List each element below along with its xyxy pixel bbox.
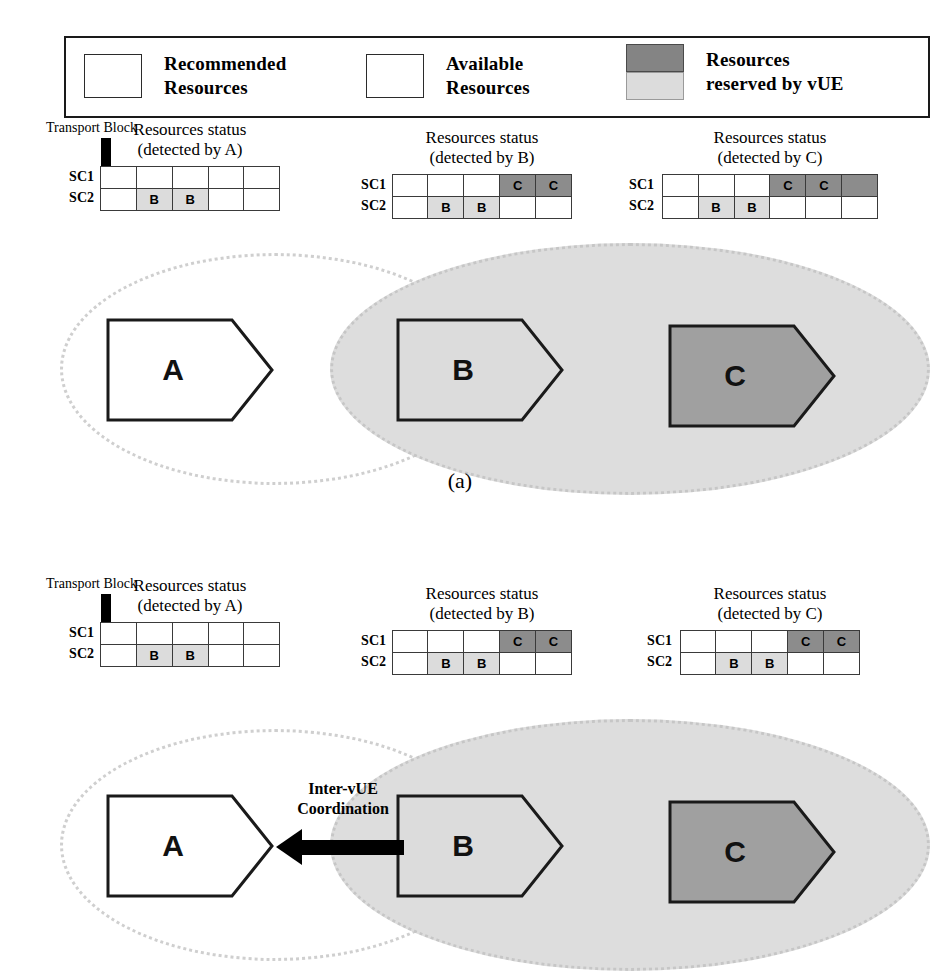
resource-cell [244, 623, 280, 645]
resource-cell: B [136, 645, 172, 667]
vehicle-a: A [106, 314, 274, 426]
resources-table-row: BB [663, 197, 878, 219]
resources-table: CCBB [662, 174, 878, 219]
resource-cell [788, 653, 824, 675]
resource-cell [698, 175, 734, 197]
legend-item-reserved-by-vue: Resources reserved by vUE [626, 44, 844, 100]
resources-table: CCBB [680, 630, 860, 675]
legend-box: Recommended Resources Available Resource… [64, 36, 930, 118]
resource-cell [244, 167, 280, 189]
reserved-resources-swatch-icon [626, 44, 684, 100]
resource-cell [842, 175, 878, 197]
resource-cell: B [136, 189, 172, 211]
resources-table-row: BB [101, 189, 280, 211]
row-label-sc1: SC1 [352, 633, 386, 649]
resources-table: CCBB [392, 630, 572, 675]
resource-cell: C [806, 175, 842, 197]
table-title-line2: (detected by C) [714, 604, 827, 624]
resources-table-title: Resources status (detected by B) [426, 128, 539, 169]
inter-vue-coordination-label: Inter-vUE Coordination [258, 779, 428, 818]
resource-cell [464, 175, 500, 197]
resources-table-title: Resources status (detected by A) [134, 120, 247, 161]
legend-label-line1: Recommended [164, 52, 287, 76]
row-label-sc2: SC2 [620, 198, 654, 214]
resources-table-row: CC [393, 175, 572, 197]
resource-cell [172, 623, 208, 645]
legend-label-line2: Resources [164, 76, 287, 100]
row-label-sc1: SC1 [60, 169, 94, 185]
resource-cell: B [428, 653, 464, 675]
legend-label-line2: Resources [446, 76, 530, 100]
legend-label-line1: Resources [706, 48, 844, 72]
reserved-dark-swatch-icon [626, 44, 684, 72]
resource-cell: B [716, 653, 752, 675]
table-title-line2: (detected by B) [426, 604, 539, 624]
resources-table-title: Resources status (detected by C) [714, 584, 827, 625]
resource-cell [393, 197, 428, 219]
available-resources-swatch-icon [366, 54, 424, 98]
recommended-resources-swatch-icon [84, 54, 142, 98]
resource-cell [842, 197, 878, 219]
table-title-line1: Resources status [714, 584, 827, 604]
row-label-sc1: SC1 [638, 633, 672, 649]
reserved-light-swatch-icon [626, 72, 684, 100]
table-title-line1: Resources status [714, 128, 827, 148]
resources-table-title: Resources status (detected by B) [426, 584, 539, 625]
legend-label-line2: reserved by vUE [706, 72, 844, 96]
table-title-line2: (detected by A) [134, 140, 247, 160]
inter-vue-coordination-arrow-icon [276, 829, 404, 865]
resources-table-row: CC [681, 631, 860, 653]
resource-cell [208, 623, 244, 645]
resource-cell [244, 645, 280, 667]
resource-cell [536, 653, 572, 675]
vehicle-label: A [106, 790, 240, 902]
vehicle-label: B [396, 314, 530, 426]
resources-table-row: BB [393, 197, 572, 219]
resource-cell [393, 631, 428, 653]
row-label-sc2: SC2 [60, 190, 94, 206]
row-label-sc2: SC2 [352, 198, 386, 214]
resource-cell [752, 631, 788, 653]
vehicle-a: A [106, 790, 274, 902]
resources-table-row [101, 623, 280, 645]
resource-cell [806, 197, 842, 219]
resource-cell [734, 175, 770, 197]
resource-cell [428, 175, 464, 197]
resources-table-group-b: Resources status (detected by B) SC1 SC2… [392, 584, 572, 679]
resources-table-group-c: Resources status (detected by C) SC1 SC2… [662, 128, 878, 223]
resource-cell [393, 175, 428, 197]
table-title-line2: (detected by B) [426, 148, 539, 168]
legend-label-line1: Available [446, 52, 530, 76]
resources-table-group-a: Resources status (detected by A) SC1 SC2… [100, 576, 280, 671]
resources-table-row: CC [393, 631, 572, 653]
row-label-sc2: SC2 [60, 646, 94, 662]
resources-table-group-b: Resources status (detected by B) SC1 SC2… [392, 128, 572, 223]
figure-caption-a: (a) [400, 468, 520, 494]
resource-cell: C [500, 631, 536, 653]
resource-cell: B [172, 645, 208, 667]
resource-cell: B [428, 197, 464, 219]
panel-b: Transport Block Resources status (detect… [0, 566, 932, 936]
resource-cell [536, 197, 572, 219]
resource-cell [824, 653, 860, 675]
table-title-line1: Resources status [426, 584, 539, 604]
resource-cell: C [770, 175, 806, 197]
resource-cell [393, 653, 428, 675]
resources-table-row: BB [101, 645, 280, 667]
resource-cell: C [788, 631, 824, 653]
table-title-line1: Resources status [134, 120, 247, 140]
resource-cell: C [824, 631, 860, 653]
resource-cell [208, 189, 244, 211]
resource-cell [136, 167, 172, 189]
resources-table-group-a: Resources status (detected by A) SC1 SC2… [100, 120, 280, 215]
panel-a: Transport Block Resources status (detect… [0, 120, 932, 510]
resource-cell: B [734, 197, 770, 219]
row-label-sc2: SC2 [638, 654, 672, 670]
resources-table-row: CC [663, 175, 878, 197]
resource-cell [770, 197, 806, 219]
resource-cell [101, 645, 137, 667]
resource-cell [101, 623, 137, 645]
row-label-sc1: SC1 [620, 177, 654, 193]
resource-cell: B [752, 653, 788, 675]
resource-cell: C [536, 631, 572, 653]
